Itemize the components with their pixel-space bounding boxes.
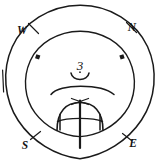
diagram-canvas: W N S E 3 bbox=[0, 0, 160, 164]
cardinal-label-north: N bbox=[127, 21, 137, 33]
cardinal-label-south: S bbox=[22, 139, 28, 151]
upper-left-dot bbox=[35, 54, 40, 59]
cardinal-label-west: W bbox=[17, 24, 28, 36]
cardinal-label-east: E bbox=[128, 137, 137, 149]
horizon-arc-group bbox=[51, 86, 114, 94]
south-tick bbox=[31, 132, 41, 140]
west-tick bbox=[29, 24, 39, 34]
left-tick bbox=[3, 70, 4, 92]
center-number-label: 3 bbox=[76, 58, 84, 73]
upper-right-dot bbox=[119, 54, 124, 59]
diagram-svg: W N S E 3 bbox=[0, 0, 160, 164]
horizon-arc bbox=[51, 86, 114, 94]
small-cup-arc bbox=[71, 73, 89, 79]
outer-circle-ticks bbox=[3, 23, 137, 141]
dome-group bbox=[57, 101, 103, 149]
